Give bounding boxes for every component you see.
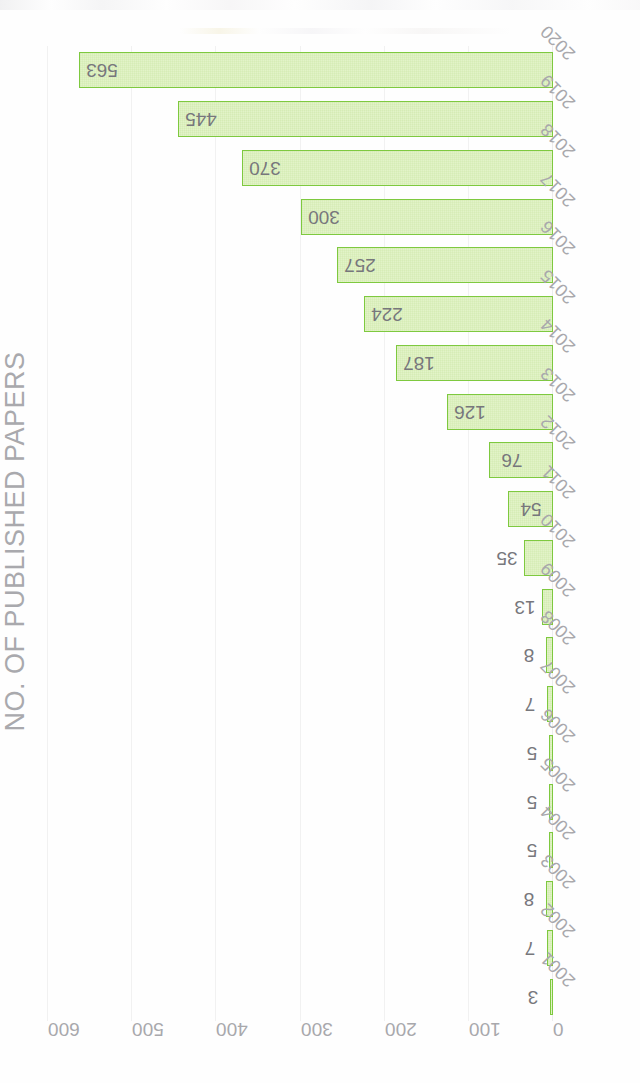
gridline xyxy=(384,46,385,1021)
y-tick-100: 100 xyxy=(469,1021,470,1083)
y-tick-label: 600 xyxy=(48,1018,80,1040)
y-tick-label: 200 xyxy=(385,1018,417,1040)
y-tick-label: 100 xyxy=(469,1018,501,1040)
bar-texture xyxy=(179,102,552,136)
bar-value-label-2015: 224 xyxy=(358,303,416,325)
bar-value-label-2017: 300 xyxy=(295,206,353,228)
y-tick-400: 400 xyxy=(216,1021,217,1083)
y-tick-label: 400 xyxy=(216,1018,248,1040)
bar-value-label-2018: 370 xyxy=(236,157,294,179)
y-tick-200: 200 xyxy=(385,1021,386,1083)
rotated-chart-container: NO. OF PUBLISHED PAPERS 3785557813355476… xyxy=(0,0,640,1083)
gridline xyxy=(131,46,132,1021)
bar-value-label-2019: 445 xyxy=(172,108,230,130)
bar-value-label-2010: 35 xyxy=(478,547,536,569)
bar-value-label-2020: 563 xyxy=(73,59,131,81)
bar-value-label-2001: 3 xyxy=(504,986,562,1008)
chart-page: NO. OF PUBLISHED PAPERS 3785557813355476… xyxy=(0,0,640,1083)
gridline xyxy=(215,46,216,1021)
y-tick-label: 0 xyxy=(553,1018,564,1040)
gridline xyxy=(468,46,469,1021)
bar-value-label-2016: 257 xyxy=(331,254,389,276)
y-tick-label: 500 xyxy=(132,1018,164,1040)
bar-value-label-2012: 76 xyxy=(483,449,541,471)
gridline xyxy=(300,46,301,1021)
bar-2019[interactable] xyxy=(178,101,553,137)
bar-texture xyxy=(80,53,552,87)
y-tick-300: 300 xyxy=(301,1021,302,1083)
bar-value-label-2013: 126 xyxy=(441,401,499,423)
bar-chart: NO. OF PUBLISHED PAPERS 3785557813355476… xyxy=(0,0,640,1083)
gridline xyxy=(47,46,48,1021)
bar-value-label-2014: 187 xyxy=(390,352,448,374)
y-tick-label: 300 xyxy=(301,1018,333,1040)
y-tick-500: 500 xyxy=(132,1021,133,1083)
bar-2020[interactable] xyxy=(79,52,553,88)
plot-area: 3785557813355476126187224257300370445563 xyxy=(48,46,553,1021)
y-tick-0: 0 xyxy=(553,1021,554,1083)
y-tick-600: 600 xyxy=(48,1021,49,1083)
chart-axis-title: NO. OF PUBLISHED PAPERS xyxy=(0,0,31,1083)
